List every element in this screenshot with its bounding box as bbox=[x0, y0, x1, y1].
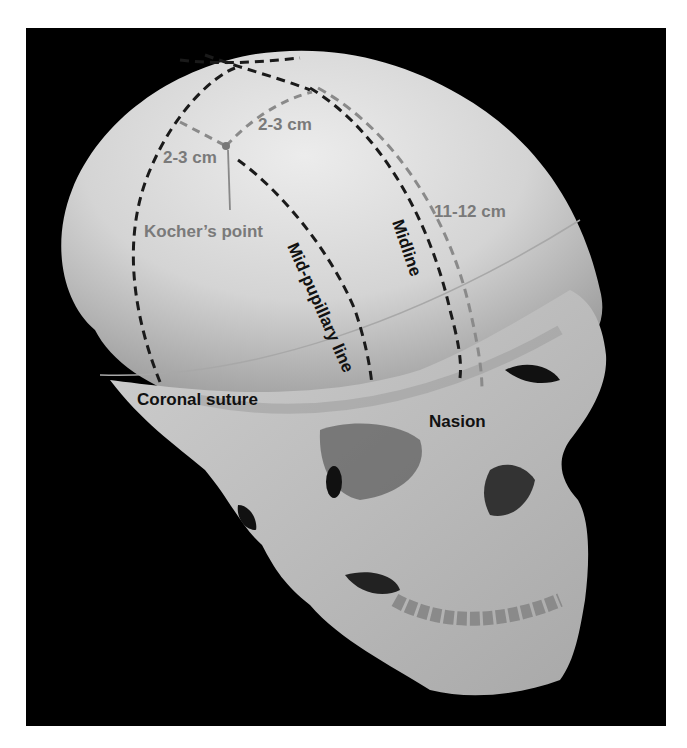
orbit-fissure bbox=[326, 466, 342, 498]
label-coronal-suture: Coronal suture bbox=[137, 390, 258, 409]
skull-illustration: 2-3 cm 2-3 cm Kocher’s point 11-12 cm Mi… bbox=[0, 0, 687, 748]
label-nasion-distance: 11-12 cm bbox=[434, 202, 506, 221]
kochers-point-marker bbox=[222, 142, 230, 150]
label-nasion: Nasion bbox=[429, 412, 486, 431]
label-distance-left: 2-3 cm bbox=[163, 148, 217, 167]
label-distance-right: 2-3 cm bbox=[258, 115, 312, 134]
label-kochers-point: Kocher’s point bbox=[144, 222, 263, 241]
